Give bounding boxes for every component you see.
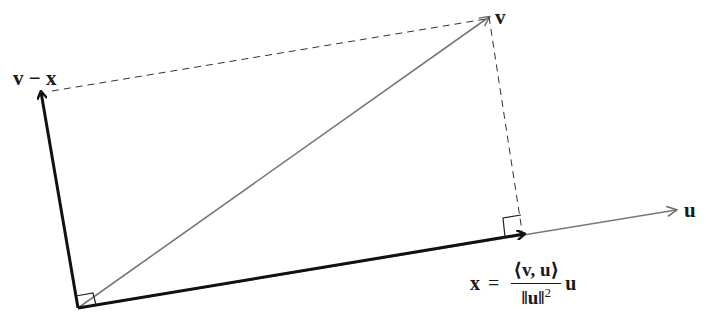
formula-rhs: u	[565, 272, 576, 295]
dashed-v-to-x	[489, 17, 522, 231]
formula-exponent: 2	[544, 285, 551, 300]
projection-diagram	[0, 0, 706, 322]
x-projection-vector	[78, 234, 524, 308]
formula-norm: ‖u‖	[522, 287, 545, 308]
formula-numerator: ⟨v, u⟩	[511, 258, 561, 284]
projection-formula: x = ⟨v, u⟩ ‖u‖2 u	[470, 258, 576, 309]
label-v-minus-x: v − x	[13, 66, 56, 91]
formula-denominator: ‖u‖2	[522, 284, 551, 309]
formula-equals: =	[488, 272, 499, 295]
v-vector	[78, 17, 489, 308]
label-u: u	[684, 198, 696, 223]
dashed-vx-to-v	[52, 19, 486, 91]
label-v: v	[495, 5, 506, 30]
v-minus-x-vector	[41, 92, 78, 308]
formula-lhs: x	[470, 272, 480, 295]
formula-fraction: ⟨v, u⟩ ‖u‖2	[511, 258, 561, 309]
